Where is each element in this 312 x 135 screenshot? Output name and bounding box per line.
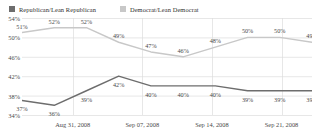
data-point-label: 42% xyxy=(113,81,124,88)
data-point-label: 39% xyxy=(274,95,285,102)
plot-area: 51%52%52%49%47%46%48%50%50%49%37%36%39%4… xyxy=(22,18,312,115)
data-point-label: 39% xyxy=(306,95,312,102)
data-point-label: 52% xyxy=(81,17,92,24)
series-line xyxy=(22,76,312,105)
data-point-label: 50% xyxy=(242,27,253,34)
y-axis-tick-label: 50% xyxy=(8,34,20,41)
y-axis-tick-label: 46% xyxy=(8,53,20,60)
x-axis: Aug 31, 2008Sep 07, 2008Sep 14, 2008Sep … xyxy=(22,116,312,135)
x-axis-tick-label: Sep 14, 2008 xyxy=(195,121,229,128)
data-point-label: 40% xyxy=(145,90,156,97)
data-point-label: 46% xyxy=(177,46,188,53)
x-axis-tick-label: Sep 21, 2008 xyxy=(265,121,299,128)
legend-label-democrat: Democrat/Lean Democrat xyxy=(130,6,199,13)
data-point-label: 48% xyxy=(210,37,221,44)
legend-item-democrat[interactable]: Democrat/Lean Democrat xyxy=(120,6,199,13)
x-axis-tick-label: Aug 31, 2008 xyxy=(55,121,90,128)
chart-legend: Republican/Lean Republican Democrat/Lean… xyxy=(0,2,312,16)
data-point-label: 47% xyxy=(145,41,156,48)
x-axis-tick-label: Sep 07, 2008 xyxy=(126,121,160,128)
data-point-label: 40% xyxy=(177,90,188,97)
data-point-label: 39% xyxy=(242,95,253,102)
y-axis: 54%50%46%42%38%34% xyxy=(0,18,22,115)
y-axis-tick-label: 38% xyxy=(8,92,20,99)
series-line xyxy=(22,28,312,57)
data-point-label: 52% xyxy=(49,17,60,24)
y-axis-tick-label: 54% xyxy=(8,15,20,22)
chart-canvas xyxy=(22,18,312,117)
data-point-label: 39% xyxy=(81,95,92,102)
poll-trend-chart: Republican/Lean Republican Democrat/Lean… xyxy=(0,0,312,135)
legend-swatch-republican-icon xyxy=(9,6,15,12)
data-point-label: 49% xyxy=(113,32,124,39)
data-point-label: 49% xyxy=(306,32,312,39)
data-point-label: 50% xyxy=(274,27,285,34)
legend-item-republican[interactable]: Republican/Lean Republican xyxy=(9,6,96,13)
y-axis-tick-label: 34% xyxy=(8,112,20,119)
y-axis-tick-label: 42% xyxy=(8,73,20,80)
data-point-label: 51% xyxy=(16,22,27,29)
data-point-label: 40% xyxy=(210,90,221,97)
data-point-label: 37% xyxy=(16,105,27,112)
legend-swatch-democrat-icon xyxy=(120,6,126,12)
legend-label-republican: Republican/Lean Republican xyxy=(19,6,96,13)
